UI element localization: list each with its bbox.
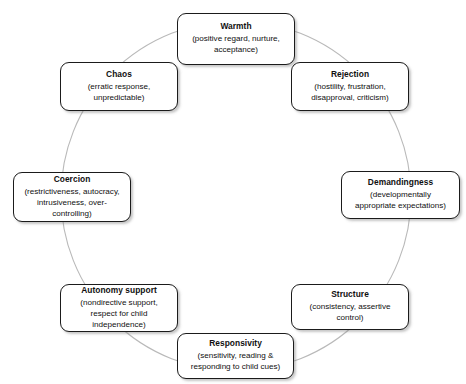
node-warmth-title: Warmth (220, 21, 251, 32)
node-rejection[interactable]: Rejection (hostility, frustration, disap… (291, 62, 409, 111)
circumplex-diagram: Warmth (positive regard, nurture, accept… (0, 0, 466, 384)
node-autonomy-support[interactable]: Autonomy support (nondirective support, … (60, 284, 178, 332)
node-chaos[interactable]: Chaos (erratic response, unpredictable) (60, 62, 178, 111)
node-coercion-title: Coercion (54, 174, 91, 185)
node-chaos-description: (erratic response, unpredictable) (88, 82, 151, 104)
node-autonomy-support-title: Autonomy support (81, 285, 157, 296)
node-responsivity-description: (sensitivity, reading & responding to ch… (191, 351, 280, 373)
node-coercion[interactable]: Coercion (restrictiveness, autocracy, in… (13, 172, 131, 222)
node-demandingness-description: (developmentally appropriate expectation… (355, 190, 446, 212)
node-responsivity[interactable]: Responsivity (sensitivity, reading & res… (177, 333, 294, 379)
node-demandingness[interactable]: Demandingness (developmentally appropria… (341, 171, 460, 219)
node-rejection-description: (hostility, frustration, disapproval, cr… (311, 82, 388, 104)
node-autonomy-support-description: (nondirective support, respect for child… (80, 298, 157, 330)
node-structure-description: (consistency, assertive control) (310, 302, 391, 324)
node-chaos-title: Chaos (106, 69, 132, 80)
node-structure[interactable]: Structure (consistency, assertive contro… (291, 284, 409, 330)
node-rejection-title: Rejection (331, 69, 369, 80)
node-warmth[interactable]: Warmth (positive regard, nurture, accept… (177, 13, 295, 65)
node-structure-title: Structure (331, 289, 369, 300)
node-coercion-description: (restrictiveness, autocracy, intrusivene… (24, 187, 119, 219)
node-demandingness-title: Demandingness (368, 177, 433, 188)
node-warmth-description: (positive regard, nurture, acceptance) (192, 34, 280, 56)
node-responsivity-title: Responsivity (209, 338, 262, 349)
